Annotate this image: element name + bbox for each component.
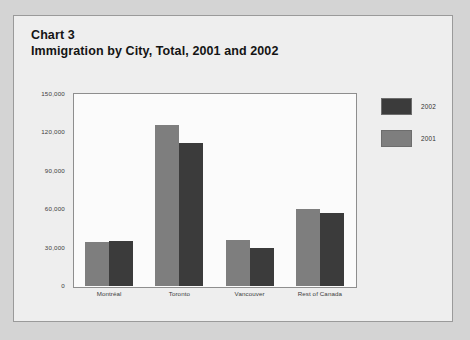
bar-2001-montréal xyxy=(85,242,109,286)
x-axis-label: Vancouver xyxy=(235,290,265,297)
y-axis-tick: 30,000 xyxy=(45,243,65,250)
bar-2002-rest-of-canada xyxy=(320,213,344,286)
bar-2002-montréal xyxy=(109,241,133,286)
y-axis-tick: 120,000 xyxy=(41,128,65,135)
legend-label-2002: 2002 xyxy=(421,103,436,110)
bar-group xyxy=(155,94,203,286)
chart-page: Chart 3 Immigration by City, Total, 2001… xyxy=(0,0,470,340)
chart-title: Immigration by City, Total, 2001 and 200… xyxy=(31,44,278,60)
bar-group xyxy=(226,94,274,286)
y-axis: 030,00060,00090,000120,000150,000 xyxy=(14,86,69,293)
y-axis-tick: 0 xyxy=(61,282,65,289)
y-axis-tick: 90,000 xyxy=(45,166,65,173)
x-axis-label: Rest of Canada xyxy=(298,290,342,297)
legend-label-2001: 2001 xyxy=(421,135,436,142)
x-axis: MontréalTorontoVancouverRest of Canada xyxy=(74,290,355,306)
legend-swatch-2002 xyxy=(381,98,412,115)
legend-item-2002: 2002 xyxy=(381,98,451,120)
chart-legend: 20022001 xyxy=(381,98,451,162)
bar-group xyxy=(85,94,133,286)
bar-2002-vancouver xyxy=(250,248,274,286)
bar-2001-toronto xyxy=(155,125,179,286)
legend-swatch-2001 xyxy=(381,130,412,147)
bar-2001-rest-of-canada xyxy=(296,209,320,286)
legend-item-2001: 2001 xyxy=(381,130,451,152)
bar-2002-toronto xyxy=(179,143,203,286)
y-axis-tick: 150,000 xyxy=(41,90,65,97)
bar-2001-vancouver xyxy=(226,240,250,286)
bar-group xyxy=(296,94,344,286)
chart-title-block: Chart 3 Immigration by City, Total, 2001… xyxy=(31,28,278,59)
chart-number: Chart 3 xyxy=(31,28,278,44)
y-axis-tick: 60,000 xyxy=(45,205,65,212)
chart-card: Chart 3 Immigration by City, Total, 2001… xyxy=(13,15,453,322)
bars-layer xyxy=(74,94,355,286)
x-axis-label: Toronto xyxy=(169,290,190,297)
x-axis-label: Montréal xyxy=(97,290,122,297)
